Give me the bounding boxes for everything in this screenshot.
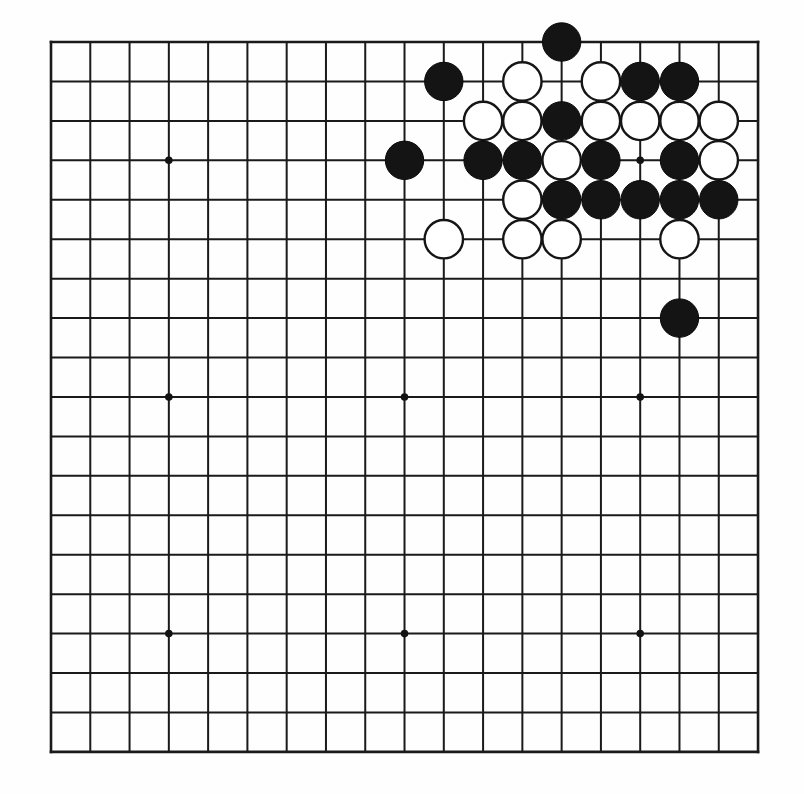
black-stone[interactable] [503, 141, 541, 179]
white-stone[interactable] [503, 220, 541, 258]
white-stone[interactable] [621, 102, 659, 140]
white-stone[interactable] [464, 102, 502, 140]
black-stone[interactable] [660, 62, 698, 100]
white-stone[interactable] [700, 102, 738, 140]
star-point [165, 393, 173, 401]
black-stone[interactable] [542, 102, 580, 140]
white-stone[interactable] [503, 62, 541, 100]
white-stone[interactable] [660, 220, 698, 258]
black-stone[interactable] [660, 299, 698, 337]
black-stone[interactable] [582, 181, 620, 219]
white-stone[interactable] [542, 141, 580, 179]
black-stone[interactable] [582, 141, 620, 179]
black-stone[interactable] [700, 181, 738, 219]
white-stone[interactable] [503, 102, 541, 140]
white-stone[interactable] [660, 102, 698, 140]
black-stone[interactable] [542, 181, 580, 219]
go-board[interactable] [0, 0, 804, 794]
star-point [636, 393, 644, 401]
black-stone[interactable] [385, 141, 423, 179]
white-stone[interactable] [503, 181, 541, 219]
black-stone[interactable] [464, 141, 502, 179]
white-stone[interactable] [700, 141, 738, 179]
black-stone[interactable] [660, 141, 698, 179]
white-stone[interactable] [582, 62, 620, 100]
black-stone[interactable] [542, 23, 580, 61]
white-stone[interactable] [542, 220, 580, 258]
black-stone[interactable] [425, 62, 463, 100]
go-board-container: Go board position [0, 0, 804, 794]
star-point [165, 157, 173, 165]
black-stone[interactable] [621, 62, 659, 100]
black-stone[interactable] [621, 181, 659, 219]
star-point [636, 630, 644, 638]
black-stone[interactable] [660, 181, 698, 219]
star-point [636, 157, 644, 165]
star-point [401, 393, 409, 401]
star-point [165, 630, 173, 638]
star-point [401, 630, 409, 638]
white-stone[interactable] [425, 220, 463, 258]
white-stone[interactable] [582, 102, 620, 140]
